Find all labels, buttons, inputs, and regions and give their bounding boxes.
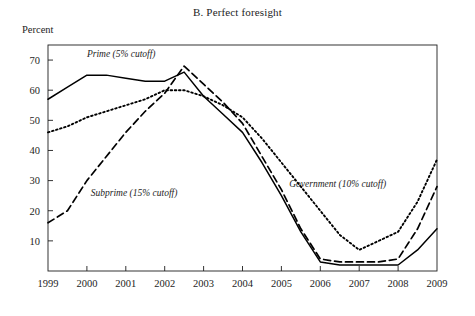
x-tick-label: 2007 [349, 278, 370, 289]
x-tick-label: 2005 [271, 278, 292, 289]
x-tick-label: 1999 [38, 278, 59, 289]
x-tick-label: 2009 [427, 278, 448, 289]
x-tick-label: 2006 [310, 278, 331, 289]
y-tick-label: 60 [30, 85, 41, 96]
y-tick-label: 10 [30, 236, 41, 247]
y-tick-label: 40 [30, 145, 41, 156]
x-tick-label: 2003 [193, 278, 214, 289]
series-line-3 [48, 90, 437, 250]
y-tick-label: 70 [30, 55, 41, 66]
chart-plot: 1020304050607019992000200120022003200420… [0, 0, 475, 316]
x-tick-label: 2000 [76, 278, 97, 289]
series-annotation-3: Government (10% cutoff) [289, 179, 386, 190]
x-tick-label: 2002 [154, 278, 175, 289]
series-annotation-2: Subprime (15% cutoff) [91, 188, 178, 199]
figure-container: B. Perfect foresight Percent 10203040506… [0, 0, 475, 316]
plot-frame [48, 45, 437, 271]
y-tick-label: 30 [30, 175, 41, 186]
x-tick-label: 2004 [232, 278, 254, 289]
y-tick-label: 20 [30, 206, 41, 217]
x-tick-label: 2001 [115, 278, 136, 289]
series-annotation-1: Prime (5% cutoff) [86, 49, 156, 60]
series-line-2 [48, 66, 437, 262]
x-tick-label: 2008 [388, 278, 409, 289]
series-line-1 [48, 72, 437, 265]
y-tick-label: 50 [30, 115, 41, 126]
